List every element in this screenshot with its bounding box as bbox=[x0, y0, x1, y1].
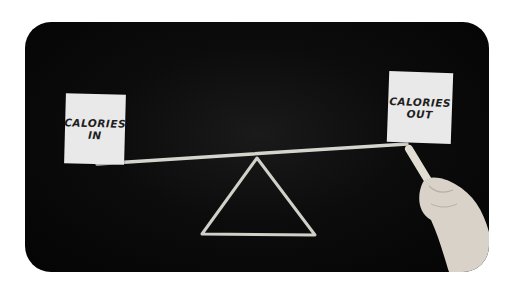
calories-out-line1: CALORIES bbox=[389, 94, 451, 108]
calories-in-note: CALORIES IN bbox=[64, 93, 126, 165]
calories-out-line2: OUT bbox=[407, 107, 434, 120]
fulcrum-triangle bbox=[202, 158, 315, 235]
chalk-stick bbox=[409, 149, 429, 182]
calories-in-line2: IN bbox=[88, 129, 102, 141]
calories-out-note: CALORIES OUT bbox=[387, 71, 453, 144]
seesaw-beam bbox=[97, 144, 407, 164]
calories-in-line1: CALORIES bbox=[64, 116, 126, 130]
hand bbox=[419, 178, 489, 272]
chalkboard-image: CALORIES IN CALORIES OUT bbox=[25, 22, 489, 272]
